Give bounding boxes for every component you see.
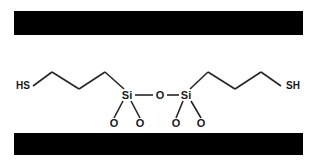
atom-label-o-right-2: O: [197, 117, 206, 129]
atom-label-hs-left: HS: [16, 80, 30, 91]
atom-label-o-left-2: O: [136, 117, 145, 129]
top-substrate: [14, 11, 303, 35]
atom-label-o-right-1: O: [172, 117, 181, 129]
atom-label-si-right: Si: [181, 89, 191, 101]
atom-label-o-left-1: O: [110, 117, 119, 129]
bottom-substrate: [14, 133, 303, 155]
atom-label-si-left: Si: [122, 89, 132, 101]
atom-label-sh-right: SH: [286, 80, 300, 91]
structure-canvas: HSSiOSiOOOOSH: [0, 0, 316, 162]
atom-label-o-bridge: O: [156, 89, 165, 101]
chemical-structure-figure: HSSiOSiOOOOSH: [0, 0, 316, 162]
